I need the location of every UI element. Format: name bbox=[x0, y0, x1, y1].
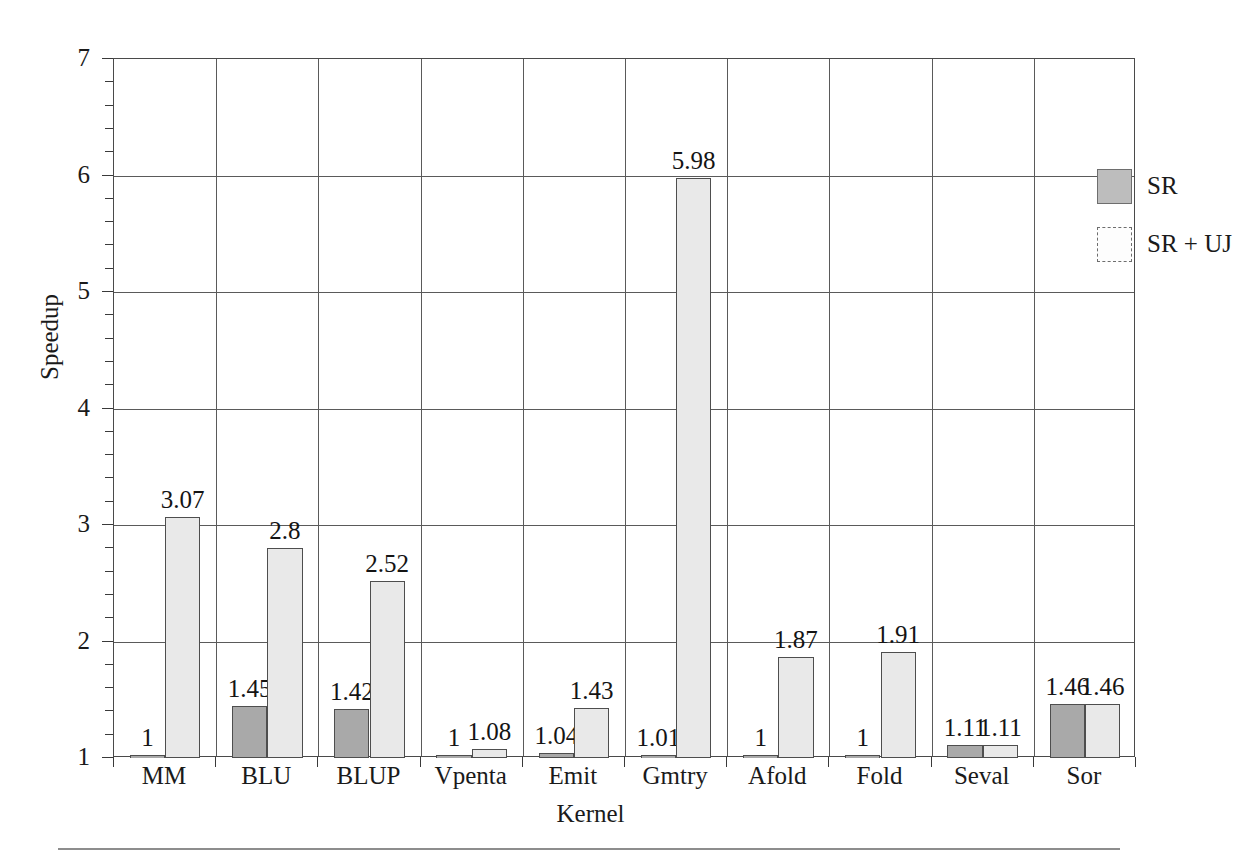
gridline-vertical bbox=[829, 59, 830, 756]
y-tick-minor bbox=[105, 431, 113, 432]
y-tick-label: 1 bbox=[10, 744, 90, 769]
bar-sruj-vpenta bbox=[472, 749, 507, 758]
y-tick-minor bbox=[105, 501, 113, 502]
y-axis-label: Speedup bbox=[36, 294, 64, 380]
legend-entry-sr-uj: SR + UJ bbox=[1097, 221, 1237, 279]
gridline-vertical bbox=[1034, 59, 1035, 756]
y-tick-label: 4 bbox=[10, 395, 90, 420]
bar-value-label: 1.45 bbox=[226, 676, 273, 701]
legend-label-sr-uj: SR + UJ bbox=[1147, 227, 1232, 261]
y-tick-label: 2 bbox=[10, 628, 90, 653]
gridline-vertical bbox=[932, 59, 933, 756]
legend-entry-sr: SR bbox=[1097, 163, 1237, 221]
bar-sr-emit bbox=[539, 753, 574, 758]
bar-sr-sor bbox=[1050, 704, 1085, 758]
x-tick-label: Fold bbox=[828, 762, 930, 790]
bar-value-label: 1.87 bbox=[772, 627, 819, 652]
bar-sr-blu bbox=[232, 706, 267, 758]
legend-swatch-sr-icon bbox=[1097, 169, 1132, 204]
y-tick-minor bbox=[105, 687, 113, 688]
bar-sr-afold bbox=[743, 755, 778, 758]
bar-sr-blup bbox=[334, 709, 369, 758]
y-tick-minor bbox=[105, 571, 113, 572]
legend: SR SR + UJ bbox=[1097, 163, 1237, 279]
x-tick-label: Seval bbox=[931, 762, 1033, 790]
y-tick-major bbox=[102, 757, 113, 758]
x-tick-mark bbox=[1135, 757, 1136, 767]
bar-value-label: 1 bbox=[737, 725, 784, 750]
bar-value-label: 1.46 bbox=[1079, 674, 1126, 699]
gridline-horizontal bbox=[114, 176, 1134, 177]
x-tick-label: Vpenta bbox=[420, 762, 522, 790]
bar-sruj-afold bbox=[778, 657, 813, 758]
legend-swatch-sr-uj-icon bbox=[1097, 227, 1132, 262]
bar-value-label: 1 bbox=[839, 725, 886, 750]
gridline-horizontal bbox=[114, 292, 1134, 293]
gridline-vertical bbox=[318, 59, 319, 756]
y-tick-minor bbox=[105, 198, 113, 199]
bar-sr-gmtry bbox=[641, 755, 676, 758]
x-tick-label: Afold bbox=[726, 762, 828, 790]
y-tick-minor bbox=[105, 710, 113, 711]
bar-value-label: 2.52 bbox=[364, 551, 411, 576]
y-tick-minor bbox=[105, 454, 113, 455]
page-footer-rule bbox=[58, 848, 1120, 850]
bar-sruj-blu bbox=[267, 548, 302, 758]
x-tick-label: Emit bbox=[522, 762, 624, 790]
y-tick-major bbox=[102, 291, 113, 292]
bar-value-label: 1 bbox=[124, 725, 171, 750]
y-tick-major bbox=[102, 175, 113, 176]
y-tick-minor bbox=[105, 151, 113, 152]
bar-value-label: 1.91 bbox=[875, 622, 922, 647]
x-tick-label: Sor bbox=[1033, 762, 1135, 790]
legend-label-sr: SR bbox=[1147, 169, 1178, 203]
bar-sr-seval bbox=[947, 745, 982, 758]
bar-value-label: 3.07 bbox=[159, 487, 206, 512]
x-tick-label: BLU bbox=[215, 762, 317, 790]
y-tick-major bbox=[102, 524, 113, 525]
y-tick-label: 3 bbox=[10, 511, 90, 536]
y-tick-minor bbox=[105, 617, 113, 618]
bar-value-label: 5.98 bbox=[670, 148, 717, 173]
y-tick-minor bbox=[105, 244, 113, 245]
bar-sruj-fold bbox=[881, 652, 916, 758]
y-tick-major bbox=[102, 58, 113, 59]
bar-value-label: 1.11 bbox=[977, 715, 1024, 740]
y-tick-minor bbox=[105, 268, 113, 269]
y-tick-label: 6 bbox=[10, 162, 90, 187]
y-tick-major bbox=[102, 641, 113, 642]
bar-sruj-gmtry bbox=[676, 178, 711, 758]
bar-sr-mm bbox=[130, 755, 165, 758]
gridline-vertical bbox=[216, 59, 217, 756]
y-tick-minor bbox=[105, 547, 113, 548]
y-tick-minor bbox=[105, 734, 113, 735]
y-tick-minor bbox=[105, 81, 113, 82]
gridline-horizontal bbox=[114, 409, 1134, 410]
bar-sruj-sor bbox=[1085, 704, 1120, 758]
bar-value-label: 2.8 bbox=[261, 518, 308, 543]
bar-sruj-seval bbox=[983, 745, 1018, 758]
bar-value-label: 1.04 bbox=[533, 723, 580, 748]
bar-value-label: 1.42 bbox=[328, 679, 375, 704]
bar-sruj-mm bbox=[165, 517, 200, 758]
gridline-vertical bbox=[523, 59, 524, 756]
bar-value-label: 1.43 bbox=[568, 678, 615, 703]
y-tick-minor bbox=[105, 664, 113, 665]
bar-value-label: 1.01 bbox=[635, 725, 682, 750]
y-tick-label: 5 bbox=[10, 278, 90, 303]
y-tick-minor bbox=[105, 384, 113, 385]
bar-sr-fold bbox=[845, 755, 880, 758]
bar-sruj-emit bbox=[574, 708, 609, 758]
plot-area: 13.071.452.81.422.5211.081.041.431.015.9… bbox=[113, 58, 1135, 757]
y-tick-minor bbox=[105, 477, 113, 478]
y-tick-minor bbox=[105, 338, 113, 339]
bar-sruj-blup bbox=[370, 581, 405, 758]
y-tick-minor bbox=[105, 361, 113, 362]
bar-value-label: 1.08 bbox=[466, 719, 513, 744]
y-tick-minor bbox=[105, 105, 113, 106]
y-tick-label: 7 bbox=[10, 45, 90, 70]
gridline-vertical bbox=[727, 59, 728, 756]
x-tick-label: BLUP bbox=[317, 762, 419, 790]
gridline-vertical bbox=[421, 59, 422, 756]
